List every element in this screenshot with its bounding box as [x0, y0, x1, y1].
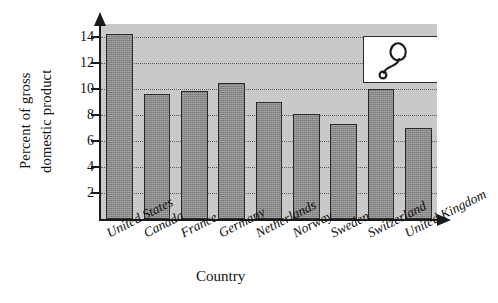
y-axis-tick-mark: [91, 192, 100, 194]
y-axis-title-line-1: Percent of gross: [14, 26, 36, 216]
bar: [368, 89, 395, 219]
bar-chart-figure: Percent of gross domestic product 246810…: [0, 0, 498, 303]
plot-area: [101, 24, 437, 219]
y-axis-tick-mark: [91, 114, 100, 116]
stethoscope-inset: [363, 36, 437, 83]
y-axis-line: [99, 24, 101, 220]
y-axis-arrowhead: [94, 12, 106, 26]
y-axis-tick-mark: [91, 36, 100, 38]
bar: [106, 34, 133, 219]
bar: [218, 83, 245, 220]
y-axis-title-line-2: domestic product: [35, 26, 57, 216]
bar: [330, 124, 357, 219]
bar: [181, 91, 208, 219]
y-axis-tick-labels: 2468101214: [60, 0, 94, 303]
y-axis-tick-mark: [91, 62, 100, 64]
bar: [256, 102, 283, 219]
x-axis-title: Country: [196, 268, 245, 285]
y-axis-tick-mark: [91, 88, 100, 90]
stethoscope-icon: [364, 37, 437, 82]
y-axis-title: Percent of gross domestic product: [14, 26, 60, 216]
y-axis-tick-mark: [91, 166, 100, 168]
y-axis-tick-mark: [91, 140, 100, 142]
